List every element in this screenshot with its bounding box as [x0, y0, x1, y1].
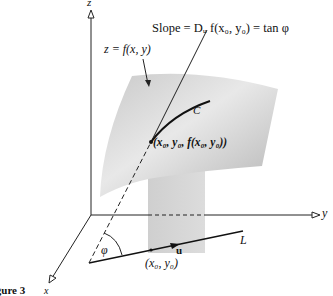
curve-C-label: C: [193, 104, 200, 116]
vertical-plane-strip: [148, 165, 205, 253]
x-axis-arrowhead-icon: [49, 275, 56, 283]
angle-phi-label: φ: [101, 243, 108, 258]
vector-u-label: u: [176, 244, 182, 256]
base-point: [149, 248, 152, 251]
y-axis-arrowhead-icon: [312, 212, 320, 218]
x-axis: [52, 215, 91, 278]
line-L-label: L: [240, 233, 247, 248]
y-axis-label: y: [322, 206, 327, 221]
surface-point-label: (x₀, y₀, f(x₀, y₀)): [153, 136, 227, 148]
directional-derivative-diagram: [0, 0, 333, 296]
x-axis-label: x: [44, 285, 48, 296]
figure-caption: Figure 3: [0, 284, 25, 296]
surface-equation-label: z = f(x, y): [104, 42, 151, 57]
z-axis-arrowhead-icon: [88, 10, 94, 18]
slope-label: Slope = Dᵤ f(x₀, y₀) = tan φ: [152, 21, 289, 36]
z-axis-label: z: [87, 0, 91, 8]
base-point-label: (x₀, y₀): [145, 256, 178, 271]
